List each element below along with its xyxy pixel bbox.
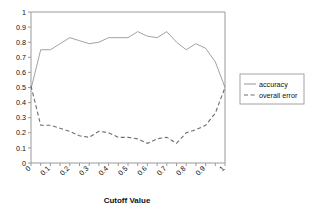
x-axis-tick-label: 0.5: [116, 164, 129, 177]
y-axis-tick-label: 0.4: [16, 98, 26, 107]
x-axis-tick-label: 0.2: [58, 164, 71, 177]
y-axis-tick-label: 1: [22, 8, 26, 17]
x-axis-tick-label: 0.7: [155, 164, 168, 177]
legend-label-overall-error: overall error: [259, 91, 298, 100]
y-axis-tick-label: 0.9: [16, 23, 26, 32]
line-chart: 00.10.20.30.40.50.60.70.80.91 00.10.20.3…: [0, 0, 309, 210]
chart-container: 00.10.20.30.40.50.60.70.80.91 00.10.20.3…: [0, 0, 309, 210]
y-axis-tick-label: 0.8: [16, 38, 26, 47]
plot-frame: [31, 12, 225, 163]
axes-group: [31, 12, 225, 163]
y-axis-tick-label: 0.3: [16, 113, 26, 122]
x-axis-tick-label: 0.3: [77, 164, 90, 177]
x-axis-tick-labels: 00.10.20.30.40.50.60.70.80.91: [23, 164, 226, 177]
x-axis-tick-label: 0.4: [97, 164, 110, 177]
y-axis-tick-label: 0.5: [16, 83, 26, 92]
x-axis-tick-label: 0.8: [174, 164, 187, 177]
x-axis-tick-label: 0.9: [194, 164, 207, 177]
x-axis-tick-label: 0.1: [38, 164, 51, 177]
series-line-accuracy: [31, 32, 225, 89]
legend-label-accuracy: accuracy: [259, 80, 288, 89]
x-axis-title: Cutoff Value: [104, 196, 151, 205]
y-axis-tick-label: 0.2: [16, 128, 26, 137]
axis-ticks-group: [28, 12, 225, 166]
series-line-overall-error: [31, 86, 225, 143]
y-axis-tick-label: 0.6: [16, 68, 26, 77]
x-axis-tick-label: 0.6: [135, 164, 148, 177]
chart-legend: accuracy overall error: [240, 74, 304, 104]
data-series-group: [31, 32, 225, 144]
y-axis-tick-label: 0.7: [16, 53, 26, 62]
y-axis-tick-labels: 00.10.20.30.40.50.60.70.80.91: [16, 8, 26, 168]
y-axis-tick-label: 0.1: [16, 144, 26, 153]
